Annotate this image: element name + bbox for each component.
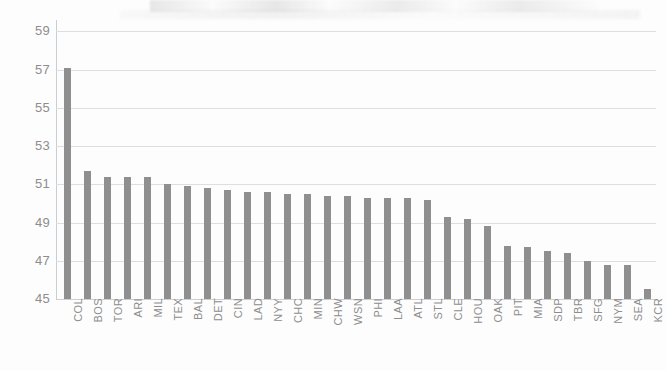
x-tick-label: TOR <box>112 298 124 358</box>
x-tick-label: SFG <box>592 298 604 358</box>
bar[interactable] <box>384 198 391 299</box>
bar[interactable] <box>604 265 611 299</box>
x-tick-label: LAD <box>252 298 264 358</box>
x-tick-label: NYM <box>612 298 624 358</box>
gridline <box>56 31 656 32</box>
bar[interactable] <box>624 265 631 299</box>
y-tick-label: 49 <box>8 215 50 230</box>
x-tick-label: KCR <box>652 298 664 358</box>
x-tick-label: PHI <box>372 298 384 358</box>
x-tick-label: CIN <box>232 298 244 358</box>
bar[interactable] <box>184 186 191 299</box>
x-tick-label: MIN <box>312 298 324 358</box>
bar-chart: 4547495153555759 COLBOSTORARIMILTEXBALDE… <box>0 0 666 371</box>
bar[interactable] <box>524 247 531 299</box>
x-tick-label: BOS <box>92 298 104 358</box>
bar[interactable] <box>444 217 451 299</box>
y-tick-label: 57 <box>8 62 50 77</box>
bar[interactable] <box>244 192 251 299</box>
bar[interactable] <box>264 192 271 299</box>
bar[interactable] <box>304 194 311 299</box>
x-tick-label: MIA <box>532 298 544 358</box>
y-tick-label: 59 <box>8 23 50 38</box>
x-tick-label: MIL <box>152 298 164 358</box>
gridline <box>56 146 656 147</box>
x-tick-label: TEX <box>172 298 184 358</box>
bar[interactable] <box>344 196 351 299</box>
bar[interactable] <box>644 289 651 299</box>
x-tick-label: OAK <box>492 298 504 358</box>
x-tick-label: DET <box>212 298 224 358</box>
bar[interactable] <box>84 171 91 299</box>
y-tick-label: 47 <box>8 253 50 268</box>
bar[interactable] <box>424 200 431 299</box>
x-tick-label: TBR <box>572 298 584 358</box>
bar[interactable] <box>564 253 571 299</box>
x-tick-label: BAL <box>192 298 204 358</box>
x-tick-label: STL <box>432 298 444 358</box>
bar[interactable] <box>504 246 511 300</box>
bar[interactable] <box>584 261 591 299</box>
bar[interactable] <box>164 184 171 299</box>
x-tick-label: WSN <box>352 298 364 358</box>
x-tick-label: CHC <box>292 298 304 358</box>
x-tick-label: ARI <box>132 298 144 358</box>
bar[interactable] <box>404 198 411 299</box>
bar[interactable] <box>224 190 231 299</box>
bar[interactable] <box>544 251 551 299</box>
scan-artifact-top <box>150 0 600 12</box>
x-tick-label: ATL <box>412 298 424 358</box>
x-tick-label: CHW <box>332 298 344 358</box>
bar[interactable] <box>484 226 491 299</box>
x-tick-label: HOU <box>472 298 484 358</box>
bar[interactable] <box>104 177 111 299</box>
y-tick-label: 55 <box>8 100 50 115</box>
bar[interactable] <box>64 68 71 299</box>
x-tick-label: PIT <box>512 298 524 358</box>
x-tick-label: LAA <box>392 298 404 358</box>
x-tick-label: NYY <box>272 298 284 358</box>
x-tick-label: CLE <box>452 298 464 358</box>
x-axis: COLBOSTORARIMILTEXBALDETCINLADNYYCHCMINC… <box>56 300 656 362</box>
y-axis: 4547495153555759 <box>0 20 50 299</box>
x-tick-label: SDP <box>552 298 564 358</box>
bar[interactable] <box>204 188 211 299</box>
bar[interactable] <box>124 177 131 299</box>
y-tick-label: 45 <box>8 291 50 306</box>
x-tick-label: SEA <box>632 298 644 358</box>
plot-area <box>56 20 656 299</box>
y-tick-label: 51 <box>8 176 50 191</box>
x-tick-label: COL <box>72 298 84 358</box>
bar[interactable] <box>284 194 291 299</box>
bar[interactable] <box>364 198 371 299</box>
bar[interactable] <box>464 219 471 299</box>
gridline <box>56 70 656 71</box>
gridline <box>56 108 656 109</box>
scan-artifact-top-secondary <box>120 10 640 19</box>
bar[interactable] <box>324 196 331 299</box>
bar[interactable] <box>144 177 151 299</box>
y-tick-label: 53 <box>8 138 50 153</box>
